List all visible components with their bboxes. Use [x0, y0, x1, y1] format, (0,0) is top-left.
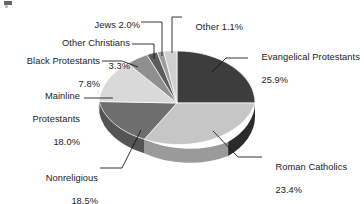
slice-evangelical-protestants[interactable]: [177, 51, 255, 103]
label-nonreligious-value: 18.5%: [71, 196, 98, 204]
label-other-christians-value: 3.3%: [109, 61, 130, 71]
label-roman-catholics-name: Roman Catholics: [276, 162, 348, 172]
label-nonreligious-name: Nonreligious: [46, 173, 98, 183]
label-mainline-protestants: Mainline Protestants 18.0%: [2, 80, 80, 160]
label-other: Other 1.1%: [185, 11, 243, 45]
label-nonreligious: Nonreligious 18.5%: [12, 162, 98, 204]
label-mainline-line1: Mainline: [45, 91, 80, 101]
label-evangelical-name: Evangelical Protestants: [262, 52, 360, 62]
label-black-protestants-value: 7.8%: [79, 79, 100, 89]
label-other-text: Other 1.1%: [196, 22, 244, 32]
label-evangelical-protestants: Evangelical Protestants 25.9%: [251, 41, 360, 98]
label-mainline-value: 18.0%: [53, 137, 80, 147]
label-evangelical-value: 25.9%: [262, 75, 289, 85]
label-roman-catholics: Roman Catholics 23.4%: [265, 151, 347, 204]
leader-line-jews: [141, 22, 162, 56]
pie-chart: Jews 2.0% Other Christians 3.3% Black Pr…: [0, 0, 364, 204]
label-mainline-line2: Protestants: [32, 114, 80, 124]
leader-line-other: [172, 17, 182, 53]
label-roman-catholics-value: 23.4%: [276, 185, 303, 195]
label-black-protestants-name: Black Protestants: [27, 56, 100, 66]
